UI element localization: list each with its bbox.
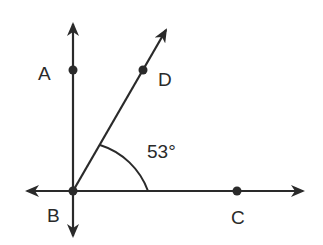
label-d: D bbox=[158, 69, 172, 90]
diagram-svg: A D B C 53° bbox=[0, 0, 323, 245]
label-c: C bbox=[231, 207, 245, 228]
point-b bbox=[69, 187, 78, 196]
geometry-diagram: A D B C 53° bbox=[0, 0, 323, 245]
point-d bbox=[139, 66, 148, 75]
angle-label: 53° bbox=[147, 141, 176, 162]
angle-arc bbox=[100, 145, 148, 191]
label-b: B bbox=[47, 205, 60, 226]
ray-bd bbox=[73, 30, 166, 191]
point-c bbox=[233, 187, 242, 196]
label-a: A bbox=[38, 63, 51, 84]
point-a bbox=[69, 66, 78, 75]
